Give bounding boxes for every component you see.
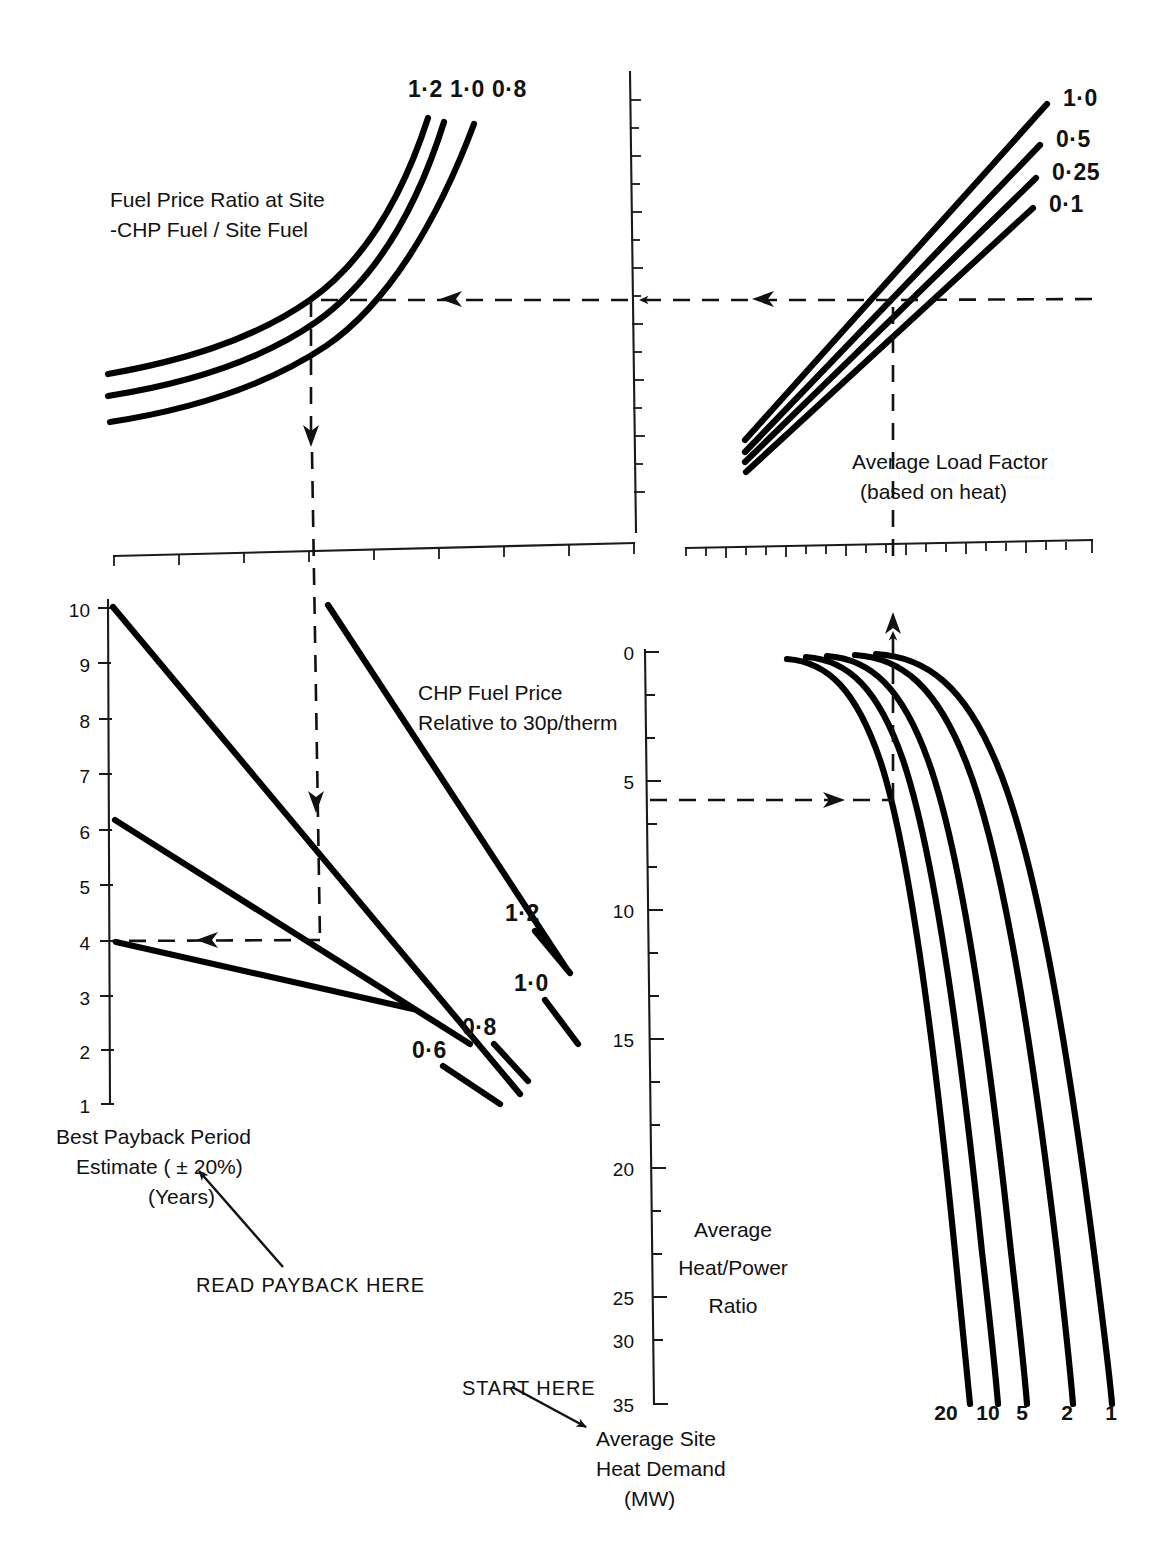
dash-left-to-payback-axis [112,940,320,941]
arrow-up-heat-demand [885,612,901,634]
heat-demand-tick-5: 5 [588,770,634,795]
curves-heat-power-ratio [787,654,1112,1404]
ticks-payback [98,608,114,1104]
curve-label-hp-ratio-2: 2 [1052,1399,1082,1427]
stub-1-0 [545,1000,578,1044]
curve-label-hp-ratio-5: 5 [1007,1399,1037,1427]
payback-tick-6: 6 [40,820,90,845]
heat-demand-tick-15: 15 [588,1028,634,1053]
dashed-path-arrowheads [196,291,901,948]
axis-vertical-upper [630,72,636,532]
curve-label-chp-price-0-6: 0·6 [412,1035,447,1065]
curve-label-fuel-ratio-1-0: 1·0 [450,74,485,104]
ticks-vertical-upper [630,100,645,492]
annotation-start-here: START HERE [462,1375,595,1401]
payback-tick-3: 3 [40,986,90,1011]
worked-example-dashed-path [112,299,1092,941]
curve-label-hp-ratio-20: 20 [925,1399,967,1427]
payback-tick-8: 8 [40,709,90,734]
curve-label-fuel-ratio-1-2: 1·2 [408,74,443,104]
dash-down-through-axis [312,452,320,940]
heat-demand-axis-label-line1: Average Site [596,1425,716,1453]
chp-fuel-price-title-line1: CHP Fuel Price [418,679,562,707]
curve-load-factor-0-1 [746,208,1033,472]
payback-tick-2: 2 [40,1040,90,1065]
curve-load-factor-0-25 [745,178,1036,462]
heat-demand-axis-label-line3: (MW) [624,1485,675,1513]
fuel-price-ratio-label-line2: -CHP Fuel / Site Fuel [110,216,308,244]
heat-demand-tick-20: 20 [588,1157,634,1182]
curve-label-load-factor-0-5: 0·5 [1056,124,1091,154]
curve-label-hp-ratio-1: 1 [1096,1399,1126,1427]
heat-demand-tick-10: 10 [588,899,634,924]
annotation-read-payback-here: READ PAYBACK HERE [196,1272,425,1298]
heat-demand-tick-30: 30 [588,1329,634,1354]
axis-heat-demand-vertical [645,650,654,1404]
axis-horizontal-right [686,540,1092,548]
curve-chp-price-0-8 [115,820,470,1044]
load-factor-label-line1: Average Load Factor [852,448,1048,476]
stub-1-2 [535,931,570,973]
payback-tick-10: 10 [40,598,90,623]
axis-payback-vertical [108,600,110,1104]
curve-fuel-ratio-1-0 [108,122,444,396]
curve-label-load-factor-1-0: 1·0 [1063,83,1098,113]
heat-power-ratio-title-line2: Heat/Power [648,1254,818,1282]
curve-label-load-factor-0-25: 0·25 [1052,157,1100,187]
payback-axis-label-line3: (Years) [148,1183,215,1211]
curve-load-factor-1-0 [745,104,1047,440]
axis-lines [108,72,1092,1404]
payback-tick-4: 4 [40,931,90,956]
arrow-left-top-left [440,291,462,307]
heat-power-ratio-title-line1: Average [648,1216,818,1244]
payback-axis-label-line1: Best Payback Period [56,1123,251,1151]
curve-fuel-ratio-1-2 [108,118,428,374]
curve-hp-ratio-2 [855,655,1073,1404]
curve-label-chp-price-0-8: 0·8 [462,1012,497,1042]
fuel-price-ratio-label-line1: Fuel Price Ratio at Site [110,186,325,214]
curve-label-hp-ratio-10: 10 [967,1399,1009,1427]
heat-demand-axis-label-line2: Heat Demand [596,1455,726,1483]
ticks-horizontal-right [686,540,1092,558]
curves-fuel-price-ratio [108,118,474,422]
stub-0-8 [494,1044,528,1081]
heat-power-ratio-title-line3: Ratio [648,1292,818,1320]
chp-fuel-price-title-line2: Relative to 30p/therm [418,709,618,737]
dash-left-top-right-segment [893,299,1092,300]
stub-0-6 [443,1066,500,1104]
payback-tick-7: 7 [40,764,90,789]
curve-chp-price-0-6 [116,942,413,1009]
heat-demand-tick-25: 25 [588,1286,634,1311]
payback-axis-label-line2: Estimate ( ± 20%) [76,1153,243,1181]
curve-label-chp-price-1-2: 1·2 [505,898,540,928]
curve-label-chp-price-1-0: 1·0 [514,968,549,998]
curve-fuel-ratio-0-8 [110,124,474,422]
payback-tick-9: 9 [40,653,90,678]
heat-demand-tick-0: 0 [588,641,634,666]
load-factor-label-line2: (based on heat) [860,478,1007,506]
curves-load-factor [745,104,1047,472]
curve-hp-ratio-1 [876,654,1112,1404]
arrow-left-payback [196,932,218,948]
arrow-down-quadrant3 [308,791,324,813]
curve-label-fuel-ratio-0-8: 0·8 [492,74,527,104]
payback-tick-5: 5 [40,875,90,900]
nomogram-page: Fuel Price Ratio at Site -CHP Fuel / Sit… [0,0,1168,1563]
curve-label-load-factor-0-1: 0·1 [1049,189,1084,219]
payback-tick-1: 1 [40,1094,90,1119]
